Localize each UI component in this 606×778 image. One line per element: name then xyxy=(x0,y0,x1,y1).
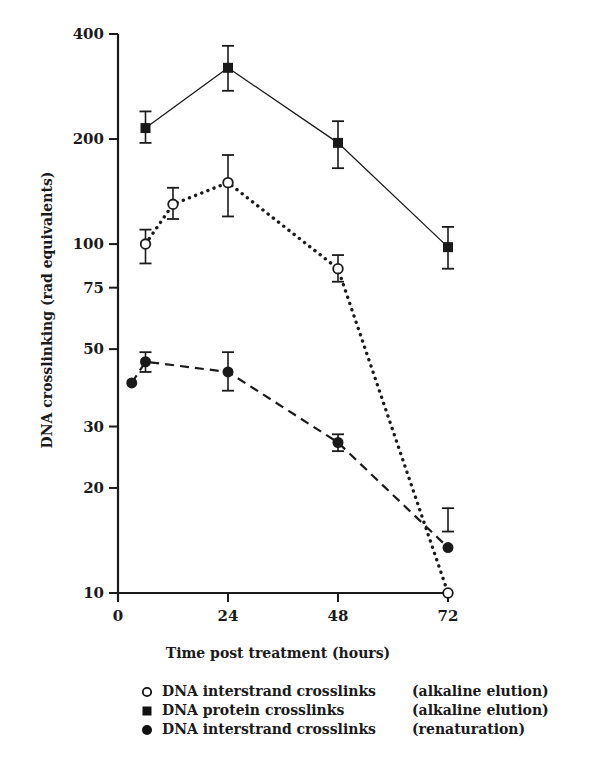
filled-square-marker xyxy=(141,123,151,133)
x-tick-label: 24 xyxy=(218,607,239,625)
open-circle-icon xyxy=(140,686,154,698)
x-axis-title: Time post treatment (hours) xyxy=(166,645,390,661)
legend-label: DNA interstrand crosslinks xyxy=(162,720,412,739)
y-tick-label: 75 xyxy=(83,279,104,297)
open-circle-marker xyxy=(333,264,343,274)
series-2 xyxy=(126,352,454,553)
filled-square-marker xyxy=(223,63,233,73)
series-line xyxy=(146,183,449,593)
open-circle-marker xyxy=(141,239,151,249)
y-tick-label: 50 xyxy=(83,340,104,358)
series-line xyxy=(146,68,449,247)
axes: 10203050751002004000244872 xyxy=(73,25,459,625)
y-tick-label: 10 xyxy=(83,584,104,602)
open-circle-marker xyxy=(168,200,178,210)
series-layer xyxy=(126,46,454,598)
series-0 xyxy=(140,155,453,598)
filled-circle-icon xyxy=(140,724,154,736)
y-axis-title: DNA crosslinking (rad equivalents) xyxy=(39,172,55,449)
y-tick-label: 20 xyxy=(83,479,104,497)
filled-circle-marker xyxy=(126,377,137,388)
legend-method: (alkaline elution) xyxy=(412,701,549,720)
legend-label: DNA protein crosslinks xyxy=(162,701,412,720)
legend-item-interstrand-renaturation: DNA interstrand crosslinks (renaturation… xyxy=(140,720,549,739)
filled-circle-marker xyxy=(140,356,151,367)
filled-square-marker xyxy=(443,242,453,252)
x-tick-label: 72 xyxy=(438,607,459,625)
series-1 xyxy=(140,46,455,269)
x-tick-label: 0 xyxy=(113,607,123,625)
x-tick-label: 48 xyxy=(328,607,349,625)
y-tick-label: 200 xyxy=(73,130,104,148)
y-tick-label: 100 xyxy=(73,235,104,253)
filled-circle-marker xyxy=(443,542,454,553)
open-circle-marker xyxy=(443,588,453,598)
open-circle-marker xyxy=(223,178,233,188)
filled-square-marker xyxy=(333,138,343,148)
filled-circle-marker xyxy=(223,366,234,377)
legend: DNA interstrand crosslinks (alkaline elu… xyxy=(140,682,549,739)
y-tick-label: 30 xyxy=(83,418,104,436)
legend-item-interstrand-alkaline: DNA interstrand crosslinks (alkaline elu… xyxy=(140,682,549,701)
legend-item-protein-alkaline: DNA protein crosslinks (alkaline elution… xyxy=(140,701,549,720)
legend-label: DNA interstrand crosslinks xyxy=(162,682,412,701)
chart-plot-area: 10203050751002004000244872 Time post tre… xyxy=(0,0,606,680)
filled-square-icon xyxy=(140,705,154,717)
legend-method: (alkaline elution) xyxy=(412,682,549,701)
legend-method: (renaturation) xyxy=(412,720,525,739)
y-tick-label: 400 xyxy=(73,25,104,43)
filled-circle-marker xyxy=(333,437,344,448)
